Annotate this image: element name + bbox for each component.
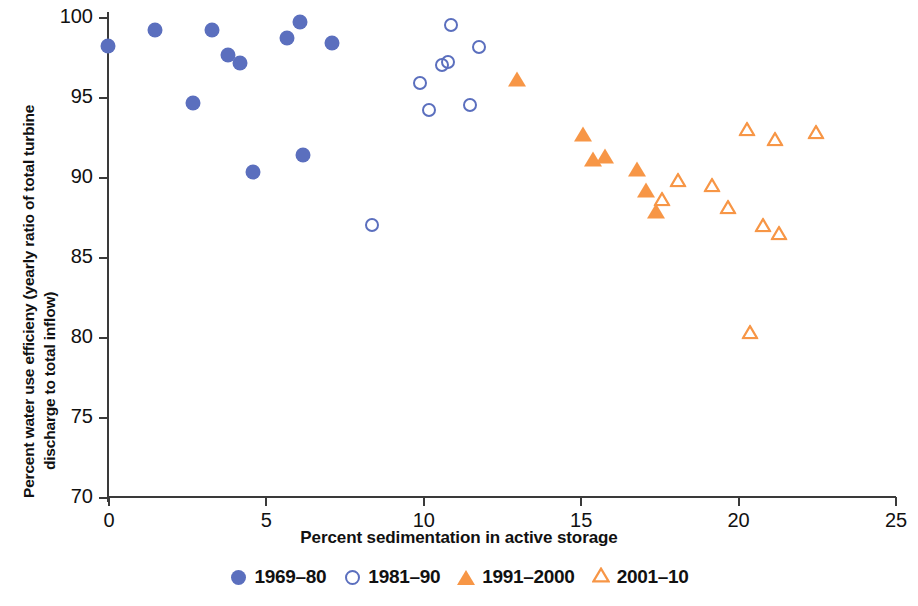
y-axis-title-line-2: discharge to total inflow) [41, 292, 59, 470]
data-point [739, 122, 756, 137]
legend-item-1991-2000[interactable]: 1991–2000 [457, 566, 574, 588]
x-tick-20: 20 [738, 497, 740, 506]
y-tick-90: 90 [99, 177, 108, 179]
legend-marker-circle-filled-icon [229, 568, 247, 586]
data-point [185, 96, 200, 111]
data-point [584, 152, 602, 167]
x-tick-10: 10 [423, 497, 425, 506]
y-tick-95: 95 [99, 97, 108, 99]
data-point [220, 48, 235, 63]
data-point [808, 125, 825, 140]
y-tick-75: 75 [99, 417, 108, 419]
chart-legend: 1969–801981–901991–20002001–10 [0, 566, 918, 588]
data-point [574, 126, 592, 141]
scatter-chart-figure: Percent water use efficieny (yearly rati… [0, 0, 918, 606]
data-point [637, 182, 655, 197]
legend-label: 2001–10 [617, 566, 689, 588]
data-point [245, 165, 260, 180]
data-point [365, 218, 379, 232]
legend-marker-triangle-filled-icon [457, 568, 475, 586]
data-point [280, 30, 295, 45]
x-tick-25: 25 [895, 497, 897, 506]
data-point [472, 40, 486, 54]
data-point [654, 192, 671, 207]
y-tick-80: 80 [99, 337, 108, 339]
data-point [463, 98, 477, 112]
legend-item-2001-10[interactable]: 2001–10 [592, 566, 689, 588]
y-tick-100: 100 [99, 17, 108, 19]
legend-item-1969-80[interactable]: 1969–80 [229, 566, 326, 588]
data-point [754, 218, 771, 233]
data-point [324, 35, 339, 50]
y-tick-label-100: 100 [60, 5, 93, 27]
data-point [596, 149, 614, 164]
data-point [293, 14, 308, 29]
data-point [101, 38, 116, 53]
y-tick-label-90: 90 [71, 165, 93, 187]
y-tick-label-70: 70 [71, 485, 93, 507]
data-point [435, 58, 449, 72]
legend-label: 1969–80 [254, 566, 326, 588]
y-axis-title: Percent water use efficieny (yearly rati… [0, 0, 56, 500]
data-point [720, 200, 737, 215]
x-tick-0: 0 [108, 497, 110, 506]
data-point [296, 147, 311, 162]
data-point [148, 22, 163, 37]
legend-marker-circle-open-icon [343, 568, 361, 586]
data-point [628, 162, 646, 177]
y-tick-70: 70 [99, 497, 108, 499]
data-point [444, 18, 458, 32]
legend-label: 1991–2000 [482, 566, 574, 588]
data-point [422, 103, 436, 117]
legend-item-1981-90[interactable]: 1981–90 [343, 566, 440, 588]
data-point [669, 173, 686, 188]
legend-label: 1981–90 [368, 566, 440, 588]
x-tick-5: 5 [265, 497, 267, 506]
x-tick-15: 15 [580, 497, 582, 506]
data-point [508, 72, 526, 87]
y-axis-title-line-1: Percent water use efficieny (yearly rati… [20, 105, 38, 498]
y-tick-85: 85 [99, 257, 108, 259]
data-point [647, 203, 665, 218]
data-point [767, 131, 784, 146]
legend-marker-triangle-open-icon [592, 568, 610, 586]
y-tick-label-80: 80 [71, 325, 93, 347]
data-point [441, 55, 455, 69]
y-tick-label-95: 95 [71, 85, 93, 107]
data-point [233, 56, 248, 71]
data-point [770, 226, 787, 241]
data-point [704, 178, 721, 193]
y-tick-label-85: 85 [71, 245, 93, 267]
data-point [413, 76, 427, 90]
data-point [204, 22, 219, 37]
plot-area: 707580859095100 0510152025 [108, 17, 895, 497]
data-point [742, 325, 759, 340]
x-axis-title: Percent sedimentation in active storage [0, 528, 918, 548]
y-tick-label-75: 75 [71, 405, 93, 427]
